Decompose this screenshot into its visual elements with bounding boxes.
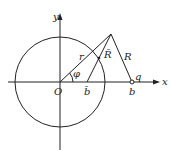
label-r: r xyxy=(79,51,85,62)
origin-label: O xyxy=(54,86,62,97)
label-q: q xyxy=(135,71,141,82)
label-R: R xyxy=(123,51,132,62)
circle-point xyxy=(98,57,101,60)
diagram-canvas: x y O r R̄ R φ b̄ b q xyxy=(0,0,170,151)
label-R-bar: R̄ xyxy=(103,49,112,60)
label-b: b xyxy=(129,86,135,97)
label-phi: φ xyxy=(73,68,80,79)
charge-q-icon xyxy=(130,80,134,84)
y-axis-label: y xyxy=(52,11,59,22)
label-b-bar: b̄ xyxy=(84,86,90,97)
x-axis-label: x xyxy=(162,76,168,87)
x-axis-arrow-icon xyxy=(153,80,160,85)
